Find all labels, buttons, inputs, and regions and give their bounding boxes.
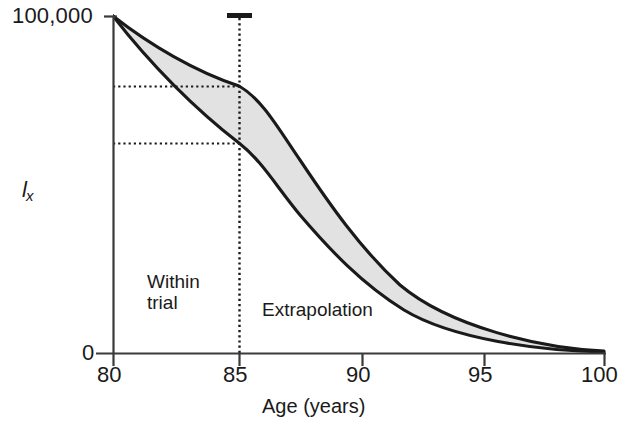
y-axis-title-subscript: x [26, 187, 34, 204]
x-tick-label-90: 90 [346, 363, 370, 388]
x-tick-label-95: 95 [468, 363, 492, 388]
annotation-extrapolation: Extrapolation [262, 299, 373, 320]
x-tick-label-80: 80 [97, 363, 121, 388]
annotation-within-trial: Within trial [147, 271, 200, 314]
x-tick-label-100: 100 [581, 363, 618, 388]
survival-curve-chart [0, 0, 633, 438]
y-tick-label-0: 0 [82, 341, 94, 366]
y-axis-title: lx [22, 178, 33, 205]
figure-container: 100,000 0 80 85 90 95 100 Age (years) lx… [0, 0, 633, 438]
x-tick-label-85: 85 [223, 363, 247, 388]
clipped-caption-text: ​ [0, 424, 633, 438]
y-tick-label-100000: 100,000 [12, 4, 93, 29]
x-axis-title: Age (years) [262, 395, 365, 417]
